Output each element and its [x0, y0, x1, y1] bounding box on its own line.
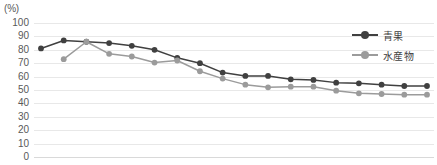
data-point-marker: [379, 91, 385, 97]
data-point-marker: [242, 82, 248, 88]
data-point-marker: [356, 80, 362, 86]
y-axis-tick-label: 70: [18, 58, 29, 68]
data-point-marker: [152, 60, 158, 66]
data-point-marker: [356, 90, 362, 96]
y-axis: 1009080706050403020100: [0, 0, 32, 165]
y-axis-tick-label: 0: [23, 152, 29, 162]
data-point-marker: [265, 73, 271, 79]
y-axis-tick-label: 80: [18, 45, 29, 55]
line-chart: (%) 1009080706050403020100 青果 水産物: [0, 0, 437, 165]
data-point-marker: [311, 77, 317, 83]
legend-label-0: 青果: [383, 28, 404, 43]
data-point-marker: [311, 84, 317, 90]
data-point-marker: [152, 47, 158, 53]
data-point-marker: [220, 70, 226, 76]
y-axis-tick-label: 40: [18, 98, 29, 108]
y-axis-tick-label: 60: [18, 72, 29, 82]
legend-marker-icon-1: [352, 50, 378, 60]
data-point-marker: [129, 54, 135, 60]
y-axis-tick-label: 20: [18, 125, 29, 135]
y-axis-tick-label: 90: [18, 31, 29, 41]
data-point-marker: [197, 68, 203, 74]
data-point-marker: [333, 88, 339, 94]
data-point-marker: [401, 83, 407, 89]
data-point-marker: [424, 92, 430, 98]
data-point-marker: [197, 60, 203, 66]
data-point-marker: [424, 83, 430, 89]
data-point-marker: [61, 38, 67, 44]
y-axis-tick-label: 10: [18, 139, 29, 149]
legend: 青果 水産物: [352, 26, 434, 66]
data-point-marker: [106, 40, 112, 46]
data-point-marker: [265, 84, 271, 90]
legend-item-0[interactable]: 青果: [352, 26, 434, 44]
data-point-marker: [288, 84, 294, 90]
y-axis-tick-label: 100: [12, 18, 29, 28]
data-point-marker: [106, 51, 112, 57]
data-point-marker: [379, 82, 385, 88]
data-point-marker: [129, 43, 135, 49]
data-point-marker: [333, 80, 339, 86]
legend-marker-icon-0: [352, 30, 378, 40]
data-point-marker: [242, 73, 248, 79]
y-axis-tick-label: 30: [18, 112, 29, 122]
y-axis-tick-label: 50: [18, 85, 29, 95]
data-point-marker: [220, 76, 226, 82]
data-point-marker: [174, 58, 180, 64]
data-point-marker: [84, 39, 90, 45]
legend-item-1[interactable]: 水産物: [352, 46, 434, 64]
data-point-marker: [61, 56, 67, 62]
legend-label-1: 水産物: [383, 48, 414, 63]
data-point-marker: [288, 76, 294, 82]
data-point-marker: [401, 92, 407, 98]
data-point-marker: [38, 46, 44, 52]
x-axis: [34, 158, 434, 165]
